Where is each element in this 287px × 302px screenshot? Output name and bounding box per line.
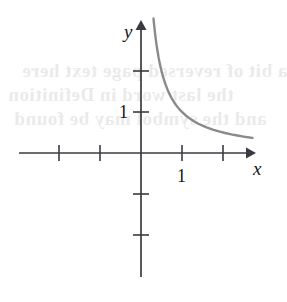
y-axis-label: y <box>124 22 132 41</box>
graph-figure: a bit of reversed page text here the las… <box>0 0 287 302</box>
x-axis-label: x <box>253 159 261 178</box>
y-axis-arrow-icon <box>136 20 147 30</box>
x-axis-arrow-icon <box>246 148 256 159</box>
hyperbola-curve <box>154 19 253 138</box>
y-tick-label-1: 1 <box>119 103 128 121</box>
coordinate-plot <box>0 0 287 302</box>
x-tick-label-1: 1 <box>177 167 186 185</box>
